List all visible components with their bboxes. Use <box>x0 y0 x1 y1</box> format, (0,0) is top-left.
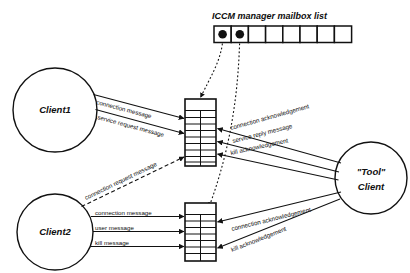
tool-client-label-line2: Client <box>358 181 385 192</box>
node-client1[interactable]: Client1 <box>13 68 97 152</box>
edge-client2-connection-label: connection message <box>95 209 152 216</box>
diagram-canvas: ICCM manager mailbox list <box>0 0 410 273</box>
edges-tool-to-lower: connection acknowledgement kill acknowle… <box>218 192 342 253</box>
mailbox-cell-8[interactable] <box>334 26 351 43</box>
mailbox-cell-1-occupied-dot <box>218 30 227 39</box>
mailbox-list-cells <box>214 26 352 43</box>
mailbox-upper-stack[interactable] <box>185 99 216 166</box>
edge-client2-kill-label: kill message <box>95 239 130 246</box>
tool-client-label-line1: "Tool" <box>357 166 386 177</box>
iccm-mailbox-diagram: ICCM manager mailbox list <box>0 0 410 273</box>
mailbox-cell-6[interactable] <box>300 26 317 43</box>
edge-tool-connection-ack-lower-label: connection acknowledgement <box>231 206 312 232</box>
edge-client2-connection-request-label: connection request message <box>83 160 158 201</box>
mailbox-cell-4[interactable] <box>266 26 283 43</box>
client2-label: Client2 <box>39 226 71 237</box>
mailbox-cell-3[interactable] <box>248 26 265 43</box>
mailbox-lower-stack[interactable] <box>185 203 216 261</box>
edge-client2-user-label: user message <box>95 224 134 231</box>
mailbox-cell-5[interactable] <box>283 26 300 43</box>
mailbox-list-group: ICCM manager mailbox list <box>212 11 352 43</box>
tool-client-circle[interactable] <box>335 142 407 214</box>
edges-client2-lower: connection message user message kill mes… <box>91 209 184 247</box>
edges-client2-upper: connection request message <box>82 157 185 207</box>
mailbox-cell-2-occupied-dot <box>236 30 245 39</box>
mailbox-cell-7[interactable] <box>317 26 334 43</box>
edges-tool-to-upper: connection acknowledgement service reply… <box>218 102 342 180</box>
pointer-cell1-to-upper-mailbox <box>201 44 223 98</box>
client1-label: Client1 <box>39 104 71 115</box>
edge-client2-connection-request-line <box>82 157 185 207</box>
node-client2[interactable]: Client2 <box>17 194 93 270</box>
mailbox-list-title: ICCM manager mailbox list <box>212 11 328 21</box>
node-tool-client[interactable]: "Tool" Client <box>335 142 407 214</box>
edges-client1: connection message service request messa… <box>94 95 185 139</box>
